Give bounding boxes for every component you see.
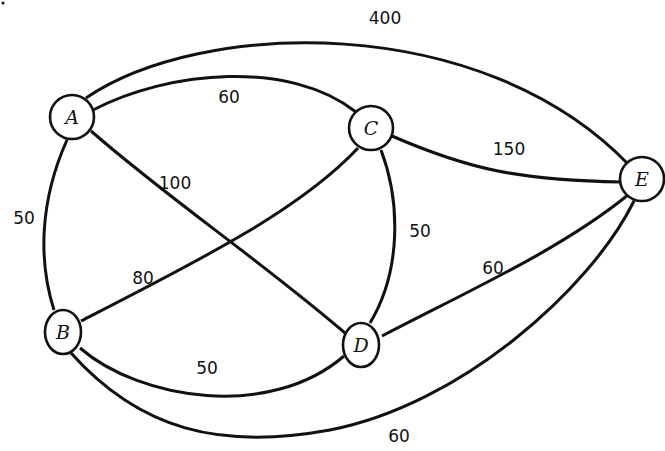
edge-c-d: [370, 150, 395, 323]
node-a-label: A: [63, 106, 79, 128]
weight-b-e: 60: [388, 426, 410, 446]
weight-a-e: 400: [369, 8, 401, 28]
node-e-label: E: [634, 168, 649, 190]
node-e: E: [620, 157, 664, 201]
weight-a-d: 100: [159, 173, 191, 193]
weight-a-c: 60: [218, 87, 240, 107]
node-c: C: [349, 106, 393, 150]
node-d-label: D: [352, 334, 368, 356]
edge-a-b: [44, 140, 67, 310]
edge-a-d: [91, 131, 345, 333]
node-d: D: [343, 323, 379, 367]
graph-diagram: 400 60 100 50 150 80 50 60 50 60 A B C D…: [0, 0, 665, 451]
weight-b-c: 80: [132, 268, 154, 288]
weight-c-d: 50: [409, 221, 431, 241]
weight-a-b: 50: [13, 208, 35, 228]
weight-d-e: 60: [482, 258, 504, 278]
speck-mark: [2, 2, 5, 5]
weight-c-e: 150: [493, 139, 525, 159]
edge-b-e: [71, 201, 634, 437]
node-c-label: C: [364, 117, 379, 139]
node-b-label: B: [55, 321, 70, 343]
node-a: A: [50, 95, 94, 139]
weight-b-d: 50: [196, 358, 218, 378]
node-b: B: [45, 310, 81, 354]
